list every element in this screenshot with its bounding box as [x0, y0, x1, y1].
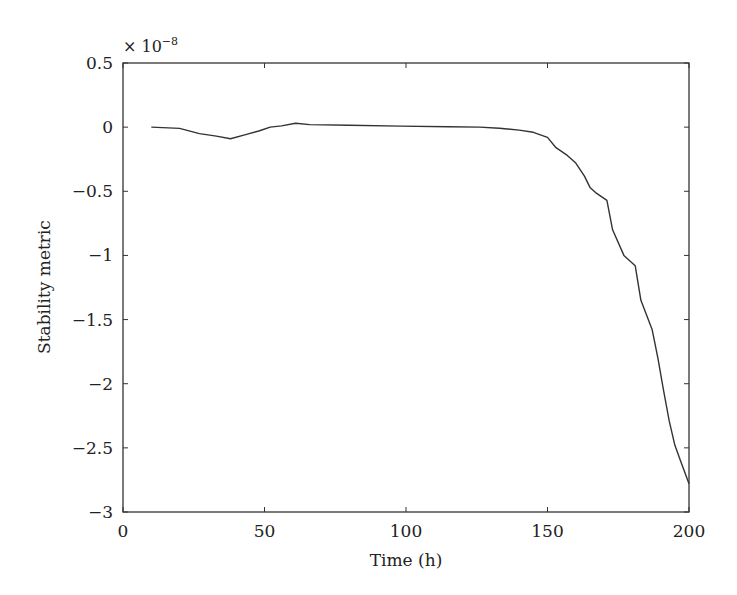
x-tick-label: 200 — [673, 521, 705, 541]
y-tick-label: −2 — [88, 374, 113, 394]
y-tick-label: 0 — [102, 117, 113, 137]
y-tick-label: −1 — [88, 245, 113, 265]
data-line — [151, 123, 689, 484]
y-tick-label: −0.5 — [72, 181, 113, 201]
x-tick-label: 50 — [254, 521, 276, 541]
y-tick-label: −1.5 — [72, 310, 113, 330]
y-tick-label: −2.5 — [72, 438, 113, 458]
x-tick-label: 100 — [390, 521, 422, 541]
y-tick-label: −3 — [88, 502, 113, 522]
y-tick-label: 0.5 — [86, 53, 113, 73]
x-axis-label: Time (h) — [370, 550, 443, 570]
line-chart: 0501001502000.50−0.5−1−1.5−2−2.5−3 × 10−… — [0, 0, 737, 595]
x-tick-label: 0 — [118, 521, 129, 541]
plot-frame — [123, 63, 689, 512]
y-axis-label: Stability metric — [34, 220, 54, 354]
x-tick-label: 150 — [531, 521, 563, 541]
y-multiplier: × 10−8 — [123, 35, 178, 56]
